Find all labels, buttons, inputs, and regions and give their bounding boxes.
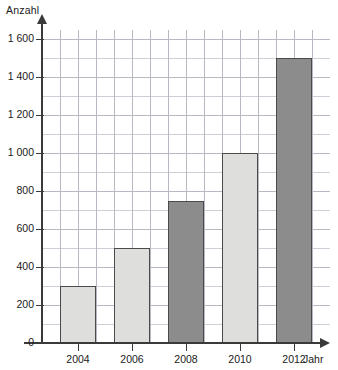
y-tick-label: 1 000 — [0, 146, 34, 158]
bar-chart: Anzahl 1 6001 4001 2001 0008006004002000… — [0, 0, 338, 370]
x-tick-label: 2006 — [109, 353, 155, 365]
bar-2008 — [168, 201, 204, 344]
x-axis-line — [24, 342, 321, 344]
x-tick-mark — [78, 344, 79, 351]
x-axis-title: Jahr — [303, 353, 323, 365]
y-tick-mark — [36, 153, 44, 154]
y-tick-mark — [36, 343, 44, 344]
y-tick-label: 400 — [0, 260, 34, 272]
x-tick-mark — [132, 344, 133, 351]
y-axis-line — [41, 22, 43, 344]
bar-2012 — [276, 58, 312, 343]
y-tick-mark — [36, 229, 44, 230]
y-tick-label: 1 200 — [0, 108, 34, 120]
y-tick-label: 800 — [0, 184, 34, 196]
x-tick-label: 2004 — [55, 353, 101, 365]
x-tick-mark — [294, 344, 295, 351]
y-tick-mark — [36, 305, 44, 306]
y-axis-arrow-icon — [37, 14, 47, 24]
x-tick-mark — [240, 344, 241, 351]
y-tick-mark — [36, 267, 44, 268]
x-axis-arrow-icon — [320, 338, 330, 348]
x-tick-mark — [186, 344, 187, 351]
bar-2010 — [222, 153, 258, 343]
y-tick-label: 200 — [0, 298, 34, 310]
y-tick-label: 600 — [0, 222, 34, 234]
y-tick-mark — [36, 77, 44, 78]
y-tick-label: 1 600 — [0, 32, 34, 44]
bar-2006 — [114, 248, 150, 343]
y-tick-mark — [36, 39, 44, 40]
y-tick-mark — [36, 191, 44, 192]
x-tick-label: 2008 — [163, 353, 209, 365]
bar-2004 — [60, 286, 96, 343]
y-tick-label: 0 — [0, 336, 34, 348]
plot-area — [42, 30, 330, 343]
y-tick-label: 1 400 — [0, 70, 34, 82]
x-tick-label: 2010 — [217, 353, 263, 365]
y-tick-mark — [36, 115, 44, 116]
y-axis-title: Anzahl — [6, 4, 39, 16]
